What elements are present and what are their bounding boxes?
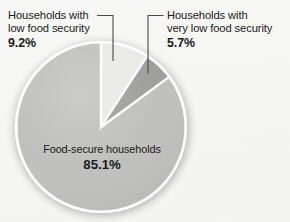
center-label-percent: 85.1% — [22, 157, 182, 172]
pie-chart-figure: Households with low food security 9.2% H… — [0, 0, 290, 222]
callout-low-percent: 9.2% — [8, 36, 90, 51]
callout-low-line1: Households with — [8, 9, 90, 22]
pie-center-label-food-secure: Food-secure households 85.1% — [22, 143, 182, 172]
callout-verylow-line2: very low food security — [167, 22, 272, 35]
center-label-line1: Food-secure households — [22, 143, 182, 155]
callout-verylow-line1: Households with — [167, 9, 272, 22]
callout-very-low-food-security: Households with very low food security 5… — [167, 9, 272, 51]
callout-verylow-percent: 5.7% — [167, 36, 272, 51]
callout-low-line2: low food security — [8, 22, 90, 35]
callout-low-food-security: Households with low food security 9.2% — [8, 9, 90, 51]
